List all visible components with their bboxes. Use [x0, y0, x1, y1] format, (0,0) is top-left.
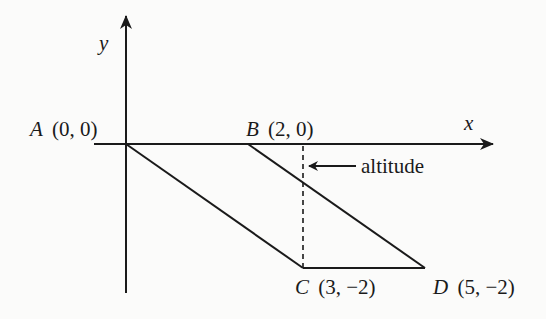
- point-c-label: C (3, −2): [295, 275, 376, 299]
- parallelogram-diagram: y x A (0, 0) B (2, 0) altitude C (3, −2)…: [0, 0, 546, 319]
- point-d-coords: (5, −2): [457, 275, 514, 299]
- point-b-name: B: [246, 117, 259, 141]
- point-b-label: B (2, 0): [246, 117, 314, 141]
- y-axis-label: y: [97, 31, 109, 55]
- point-a-name: A: [28, 117, 43, 141]
- side-ac: [126, 144, 303, 268]
- point-d-label: D (5, −2): [432, 275, 515, 299]
- point-a-label: A (0, 0): [28, 117, 98, 141]
- point-c-name: C: [295, 275, 310, 299]
- point-b-coords: (2, 0): [268, 117, 314, 141]
- point-c-coords: (3, −2): [318, 275, 375, 299]
- altitude-label: altitude: [361, 154, 424, 178]
- point-a-coords: (0, 0): [52, 117, 98, 141]
- point-d-name: D: [432, 275, 448, 299]
- x-axis-label: x: [463, 111, 474, 135]
